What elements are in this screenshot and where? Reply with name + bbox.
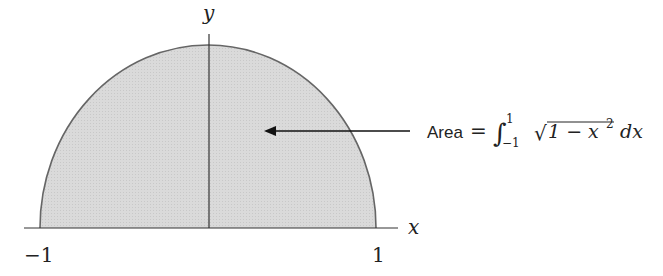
radicand: 1 − x	[548, 120, 599, 142]
exponent: 2	[606, 117, 614, 131]
semicircle-region	[40, 45, 376, 228]
equals-sign: =	[470, 119, 487, 143]
integral-lower: −1	[502, 136, 520, 150]
tick-label-neg1: −1	[24, 243, 53, 267]
area-formula: Area = ∫ 1 −1 √ 1 − x 2 dx	[427, 112, 643, 150]
x-axis-label: x	[408, 215, 419, 239]
sqrt-sign: √	[534, 121, 547, 145]
area-word: Area	[427, 123, 463, 142]
tick-label-1: 1	[372, 243, 385, 267]
semicircle-diagram: y x −1 1 Area = ∫ 1 −1 √ 1 − x 2 dx	[0, 0, 663, 276]
y-axis-label: y	[202, 1, 215, 25]
integral-upper: 1	[506, 112, 514, 126]
dx: dx	[620, 120, 643, 142]
